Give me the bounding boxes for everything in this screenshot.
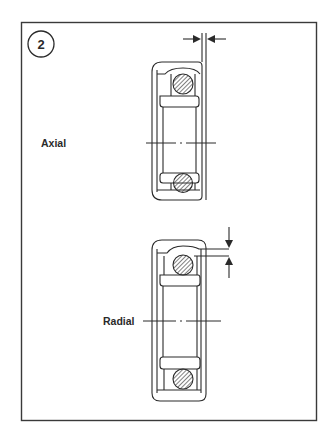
figure-number-badge: 2 (28, 31, 54, 57)
bearing-play-diagram: 2 Axial (0, 0, 332, 441)
ball-icon (173, 369, 193, 389)
radial-clearance-indicator (225, 227, 233, 278)
ball-icon (173, 255, 193, 275)
radial-label: Radial (103, 315, 135, 327)
axial-label: Axial (41, 137, 66, 149)
figure-frame (22, 23, 317, 421)
figure-number: 2 (37, 37, 44, 52)
axial-clearance-indicator (183, 33, 226, 200)
ball-icon (174, 174, 193, 193)
ball-icon (173, 74, 193, 94)
